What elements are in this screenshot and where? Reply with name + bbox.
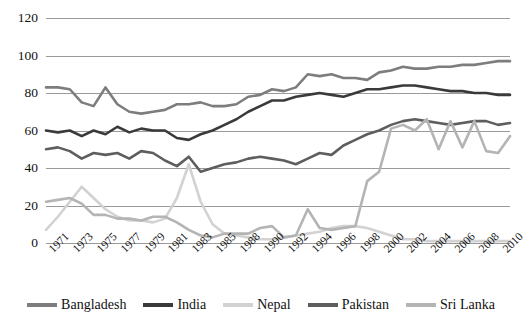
y-axis-labels: 020406080100120: [0, 18, 38, 243]
y-axis-tick-label: 0: [31, 236, 38, 250]
y-axis-tick-label: 60: [25, 124, 39, 138]
y-axis-tick-label: 100: [18, 49, 38, 63]
legend-item-nepal[interactable]: Nepal: [223, 298, 290, 312]
series-line-sri-lanka: [46, 119, 510, 237]
series-line-india: [46, 86, 510, 140]
y-axis-tick-label: 80: [25, 86, 39, 100]
legend-label: Bangladesh: [61, 298, 126, 312]
legend-swatch-icon: [406, 303, 436, 307]
legend-swatch-icon: [308, 303, 338, 307]
x-axis-labels: 1971197319751977197919811983198519881990…: [46, 247, 510, 289]
plot-area: [46, 18, 510, 243]
legend-item-bangladesh[interactable]: Bangladesh: [27, 298, 126, 312]
chart-legend: BangladeshIndiaNepalPakistanSri Lanka: [0, 293, 522, 317]
legend-item-sri-lanka[interactable]: Sri Lanka: [406, 298, 495, 312]
legend-label: Nepal: [257, 298, 290, 312]
legend-label: Sri Lanka: [440, 298, 495, 312]
legend-swatch-icon: [27, 303, 57, 307]
series-line-bangladesh: [46, 61, 510, 113]
y-axis-tick-label: 40: [25, 161, 39, 175]
y-axis-tick-label: 20: [25, 199, 39, 213]
legend-label: India: [177, 298, 206, 312]
legend-item-india[interactable]: India: [143, 298, 206, 312]
legend-label: Pakistan: [342, 298, 389, 312]
legend-swatch-icon: [143, 303, 173, 307]
legend-item-pakistan[interactable]: Pakistan: [308, 298, 389, 312]
series-lines: [46, 18, 510, 243]
y-axis-tick-label: 120: [18, 11, 38, 25]
legend-swatch-icon: [223, 303, 253, 307]
